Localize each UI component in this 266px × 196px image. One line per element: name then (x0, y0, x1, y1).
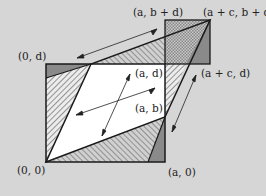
label-a0: (a, 0) (168, 167, 196, 178)
label-ad: (a, d) (135, 68, 163, 79)
label-origin: (0, 0) (17, 165, 45, 176)
label-0d: (0, d) (18, 51, 46, 62)
label-ac-bd: (a + c, b + d) (203, 7, 266, 18)
label-ac-d: (a + c, d) (201, 68, 250, 79)
label-ab: (a, b) (135, 103, 163, 114)
label-a-bd: (a, b + d) (133, 7, 183, 18)
